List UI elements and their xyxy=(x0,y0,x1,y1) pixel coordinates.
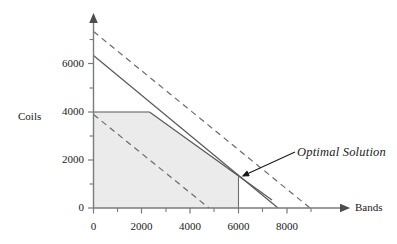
linear-programming-graph: Coils Bands 6000 4000 2000 0 0 2000 4000… xyxy=(0,0,397,244)
x-tick-label-0: 0 xyxy=(78,220,109,232)
optimal-solution-annotation-label: Optimal Solution xyxy=(297,145,386,160)
optimal-solution-leader-line xyxy=(248,152,295,174)
y-tick-label-4000: 4000 xyxy=(48,105,84,117)
x-tick-label-6000: 6000 xyxy=(223,220,254,232)
x-tick-label-8000: 8000 xyxy=(272,220,303,232)
y-tick-label-6000: 6000 xyxy=(48,57,84,69)
x-axis-major-ticks xyxy=(94,208,288,214)
x-tick-label-4000: 4000 xyxy=(175,220,206,232)
y-tick-label-0: 0 xyxy=(48,201,84,213)
x-tick-label-2000: 2000 xyxy=(126,220,157,232)
y-tick-label-2000: 2000 xyxy=(48,153,84,165)
x-axis-title: Bands xyxy=(355,201,383,213)
y-axis-title: Coils xyxy=(18,110,41,122)
